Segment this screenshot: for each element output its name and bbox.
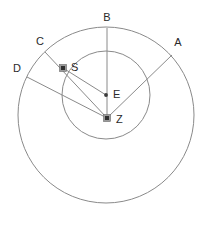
point-label-z: Z [116, 113, 123, 125]
point-label-a: A [174, 36, 182, 48]
point-marker-e [104, 93, 108, 97]
point-label-e: E [113, 88, 120, 100]
diagram-canvas: A B C D S E Z [0, 0, 213, 225]
point-marker-z [104, 115, 111, 122]
ray-z-to-d [27, 77, 107, 118]
ray-z-to-a [107, 55, 172, 118]
point-label-b: B [103, 11, 110, 23]
point-label-c: C [36, 35, 44, 47]
point-marker-s [60, 65, 67, 72]
point-label-s: S [71, 61, 78, 73]
geometry-diagram: A B C D S E Z [0, 0, 213, 225]
ray-s-to-e [63, 68, 106, 95]
point-label-d: D [13, 62, 21, 74]
